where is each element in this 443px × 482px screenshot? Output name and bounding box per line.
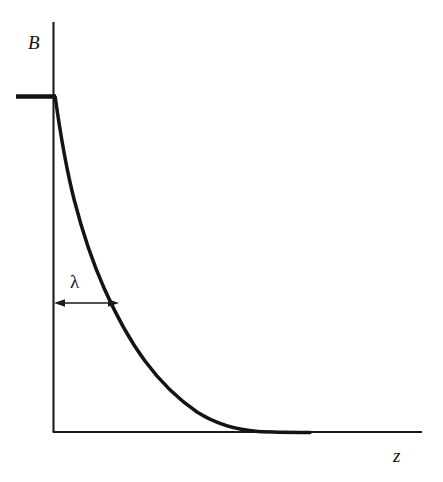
double-headed-arrow-icon (54, 299, 119, 307)
lambda-label: λ (70, 272, 79, 291)
plot-canvas (0, 0, 443, 482)
x-axis-label: z (393, 446, 400, 465)
figure-exponential-field-decay: B z λ (0, 0, 443, 482)
decay-curve (55, 97, 310, 432)
y-axis-label: B (28, 33, 40, 52)
